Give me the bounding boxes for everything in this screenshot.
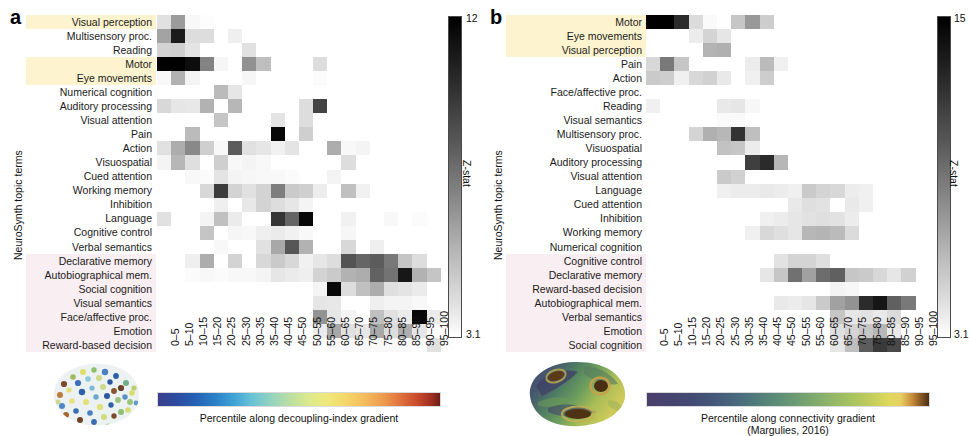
heatmap-cell: [774, 282, 788, 296]
heatmap-cell: [242, 85, 256, 99]
heatmap-cell: [674, 268, 688, 282]
heatmap-cell: [731, 99, 745, 113]
row-label: Pain: [506, 57, 646, 71]
heatmap-cell: [157, 282, 171, 296]
heatmap-cell: [256, 226, 270, 240]
heatmap-cell: [285, 99, 299, 113]
heatmap-cell: [412, 226, 426, 240]
heatmap-cell: [717, 184, 731, 198]
heatmap-cell: [171, 198, 185, 212]
heatmap-cell: [228, 113, 242, 127]
heatmap-cell: [873, 254, 887, 268]
heatmap-cell: [398, 127, 412, 141]
heatmap-cell: [341, 57, 355, 71]
heatmap-cell: [384, 57, 398, 71]
heatmap-cell: [356, 15, 370, 29]
heatmap-cell: [731, 155, 745, 169]
x-tick-label: 45–50: [296, 317, 308, 346]
heatmap-cell: [370, 127, 384, 141]
heatmap-cell: [256, 43, 270, 57]
heatmap-cell: [327, 57, 341, 71]
heatmap-cell: [774, 184, 788, 198]
heatmap-cell: [200, 99, 214, 113]
heatmap-cell: [901, 184, 915, 198]
heatmap-cell: [845, 155, 859, 169]
heatmap-cell: [412, 170, 426, 184]
heatmap-cell: [214, 184, 228, 198]
x-tick-label: 15–20: [211, 317, 223, 346]
heatmap-cell: [646, 198, 660, 212]
heatmap-cell: [916, 212, 930, 226]
heatmap-cell: [788, 184, 802, 198]
heatmap-cell: [774, 240, 788, 254]
heatmap-cell: [760, 127, 774, 141]
heatmap-cell: [859, 57, 873, 71]
heatmap-cell: [370, 226, 384, 240]
heatmap-cell: [717, 43, 731, 57]
heatmap-cell: [887, 15, 901, 29]
heatmap-cell: [341, 212, 355, 226]
heatmap-cell: [327, 85, 341, 99]
heatmap-cell: [200, 254, 214, 268]
heatmap-cell: [717, 29, 731, 43]
heatmap-cell: [242, 155, 256, 169]
heatmap-cell: [689, 170, 703, 184]
heatmap-cell: [327, 15, 341, 29]
heatmap-cell: [845, 29, 859, 43]
heatmap-cell: [242, 184, 256, 198]
heatmap-cell: [398, 198, 412, 212]
x-tick-label: 30–35: [254, 317, 266, 346]
heatmap-cell: [200, 268, 214, 282]
row-label: Verbal semantics: [26, 240, 156, 254]
heatmap-cell: [646, 170, 660, 184]
heatmap-cell: [802, 57, 816, 71]
panel-b-zstat-min: 3.1: [954, 328, 969, 340]
heatmap-cell: [242, 43, 256, 57]
heatmap-cell: [873, 71, 887, 85]
row-label: Declarative memory: [506, 268, 646, 282]
heatmap-cell: [271, 254, 285, 268]
heatmap-cell: [703, 170, 717, 184]
heatmap-cell: [802, 226, 816, 240]
heatmap-cell: [887, 268, 901, 282]
heatmap-cell: [370, 43, 384, 57]
heatmap-cell: [157, 296, 171, 310]
heatmap-cell: [745, 226, 759, 240]
heatmap-cell: [214, 170, 228, 184]
heatmap-cell: [703, 85, 717, 99]
heatmap-cell: [646, 57, 660, 71]
x-tick-label: 70–75: [856, 317, 868, 346]
heatmap-cell: [717, 15, 731, 29]
heatmap-cell: [689, 282, 703, 296]
heatmap-cell: [398, 141, 412, 155]
heatmap-cell: [356, 184, 370, 198]
heatmap-cell: [760, 240, 774, 254]
heatmap-cell: [228, 282, 242, 296]
heatmap-cell: [171, 113, 185, 127]
x-tick-label: 15–20: [700, 317, 712, 346]
heatmap-cell: [242, 29, 256, 43]
heatmap-cell: [412, 141, 426, 155]
row-label: Visual attention: [26, 113, 156, 127]
heatmap-cell: [816, 43, 830, 57]
heatmap-cell: [256, 85, 270, 99]
heatmap-cell: [646, 184, 660, 198]
heatmap-cell: [384, 212, 398, 226]
heatmap-cell: [859, 212, 873, 226]
heatmap-cell: [774, 57, 788, 71]
heatmap-cell: [916, 57, 930, 71]
heatmap-cell: [646, 226, 660, 240]
heatmap-cell: [185, 184, 199, 198]
heatmap-cell: [285, 43, 299, 57]
heatmap-cell: [901, 155, 915, 169]
heatmap-cell: [788, 296, 802, 310]
heatmap-cell: [384, 113, 398, 127]
heatmap-cell: [171, 254, 185, 268]
heatmap-cell: [299, 296, 313, 310]
heatmap-cell: [774, 71, 788, 85]
heatmap-cell: [427, 15, 441, 29]
heatmap-cell: [200, 85, 214, 99]
heatmap-cell: [689, 212, 703, 226]
heatmap-cell: [256, 99, 270, 113]
x-tick-label: 45–50: [785, 317, 797, 346]
